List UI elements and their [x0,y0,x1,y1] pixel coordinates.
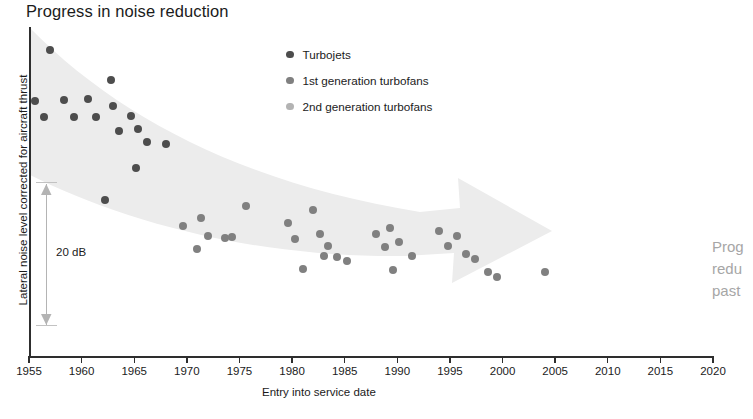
data-point [444,242,452,250]
x-tick-2000 [502,356,503,363]
x-tick-1995 [449,356,450,363]
data-point [143,138,151,146]
data-point [132,164,140,172]
x-tick-2005 [554,356,555,363]
x-tick-label-1980: 1980 [279,365,305,377]
legend-item[interactable]: Turbojets [286,48,351,61]
legend-item-label: 1st generation turbofans [303,74,429,87]
data-point [70,113,78,121]
data-point [309,206,317,214]
scale-bar-stem [46,184,47,325]
y-axis-label: Lateral noise level corrected for aircra… [17,30,29,350]
x-tick-1980 [291,356,292,363]
data-point [408,252,416,260]
data-point [435,227,443,235]
x-tick-1990 [397,356,398,363]
side-note-line-1: Prog [712,236,744,258]
scale-bar-up-arrowhead [40,184,53,196]
scale-bar-label: 20 dB [56,246,86,258]
data-point [92,113,100,121]
side-note: Prog redu past [712,236,744,302]
x-tick-label-1985: 1985 [332,365,358,377]
x-tick-label-2005: 2005 [542,365,568,377]
x-tick-label-2020: 2020 [700,365,726,377]
y-axis-line [29,27,31,357]
data-point [453,232,461,240]
data-point [389,266,397,274]
data-point [31,97,39,105]
x-tick-label-2000: 2000 [490,365,516,377]
x-tick-label-1995: 1995 [437,365,463,377]
x-tick-2015 [660,356,661,363]
legend-item[interactable]: 2nd generation turbofans [286,100,432,113]
data-point [40,113,48,121]
x-axis-label: Entry into service date [262,386,376,398]
x-tick-label-1970: 1970 [174,365,200,377]
side-note-line-3: past [712,280,744,302]
chart-figure: Progress in noise reduction Lateral nois… [0,0,753,419]
x-tick-label-1960: 1960 [69,365,95,377]
x-tick-1975 [239,356,240,363]
data-point [242,202,250,210]
page-title: Progress in noise reduction [26,2,229,21]
x-tick-label-1990: 1990 [385,365,411,377]
x-tick-label-2010: 2010 [595,365,621,377]
x-tick-1970 [186,356,187,363]
data-point [162,140,170,148]
legend-item[interactable]: 1st generation turbofans [286,74,429,87]
data-point [46,46,54,54]
data-point [134,125,142,133]
data-point [193,245,201,253]
data-point [343,257,351,265]
data-point [84,95,92,103]
data-point [204,232,212,240]
x-tick-1965 [134,356,135,363]
x-tick-label-1965: 1965 [121,365,147,377]
x-tick-2020 [712,356,713,363]
data-point [324,242,332,250]
legend-item-label: 2nd generation turbofans [303,100,433,113]
data-point [484,268,492,276]
data-point [228,233,236,241]
x-tick-1955 [28,356,29,363]
data-point [299,265,307,273]
data-point [127,112,135,120]
data-point [471,255,479,263]
x-axis-line [29,356,713,358]
data-point [372,230,380,238]
data-point [115,127,123,135]
x-tick-1985 [344,356,345,363]
data-point [291,235,299,243]
legend-marker-icon [286,77,294,85]
data-point [197,214,205,222]
legend-marker-icon [286,51,294,59]
data-point [386,224,394,232]
legend-item-label: Turbojets [303,48,351,61]
data-point [109,102,117,110]
data-point [395,238,403,246]
data-point [541,268,549,276]
legend-marker-icon [286,103,294,111]
data-point [381,243,389,251]
data-point [333,253,341,261]
x-tick-label-1955: 1955 [16,365,42,377]
data-point [316,230,324,238]
data-point [179,222,187,230]
x-tick-1960 [81,356,82,363]
scale-bar-bottom-cap [36,325,57,326]
x-tick-label-2015: 2015 [648,365,674,377]
side-note-line-2: redu [712,258,744,280]
data-point [493,273,501,281]
data-point [107,76,115,84]
scale-bar-down-arrowhead [40,313,53,325]
data-point [320,252,328,260]
x-tick-2010 [607,356,608,363]
data-point [101,196,109,204]
data-point [462,250,470,258]
trend-arrow-shape [30,28,552,283]
data-point [284,219,292,227]
data-point [60,96,68,104]
x-tick-label-1975: 1975 [227,365,253,377]
